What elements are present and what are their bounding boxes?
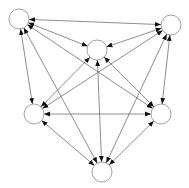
node-top-left <box>9 9 29 29</box>
node-middle-right <box>151 104 171 124</box>
edge-top-right-to-bottom <box>106 34 167 163</box>
graph-diagram <box>0 0 189 188</box>
edge-top-left-to-center <box>28 23 87 47</box>
edge-center-to-bottom <box>97 60 101 162</box>
node-top-right <box>161 15 181 35</box>
edge-top-right-to-center <box>106 28 161 47</box>
node-middle-left <box>24 104 44 124</box>
edge-center-to-middle-right <box>104 57 154 107</box>
edge-top-right-to-middle-right <box>162 35 170 104</box>
node-center <box>87 40 107 60</box>
edge-top-left-to-bottom <box>24 28 97 163</box>
edge-top-left-to-top-right <box>29 19 161 24</box>
node-bottom <box>92 162 112 182</box>
